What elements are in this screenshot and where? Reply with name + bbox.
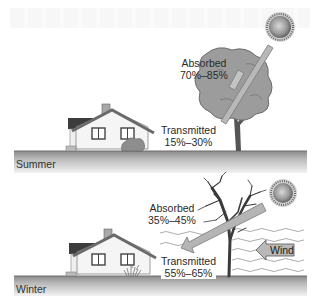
house-icon (66, 229, 156, 276)
diagram-canvas (0, 0, 319, 305)
wind-label: Wind (270, 244, 294, 256)
absorbed-title: Absorbed (180, 57, 228, 69)
winter-transmitted-label: Transmitted 55%–65% (161, 255, 216, 279)
absorbed-range: 35%–45% (148, 214, 196, 226)
summer-panel (14, 12, 307, 173)
winter-ground (14, 276, 307, 296)
sun-icon (269, 179, 297, 207)
transmitted-title: Transmitted (161, 255, 216, 267)
transmitted-range: 55%–65% (161, 267, 216, 279)
season-label-winter: Winter (16, 283, 46, 295)
summer-absorbed-label: Absorbed 70%–85% (180, 57, 228, 81)
summer-transmitted-label: Transmitted 15%–30% (161, 124, 216, 148)
transmitted-range: 15%–30% (161, 136, 216, 148)
transmitted-title: Transmitted (161, 124, 216, 136)
absorbed-title: Absorbed (148, 202, 196, 214)
summer-ground (14, 151, 307, 173)
sun-icon (265, 12, 295, 42)
season-label-summer: Summer (16, 158, 56, 170)
winter-absorbed-label: Absorbed 35%–45% (148, 202, 196, 226)
absorbed-range: 70%–85% (180, 69, 228, 81)
